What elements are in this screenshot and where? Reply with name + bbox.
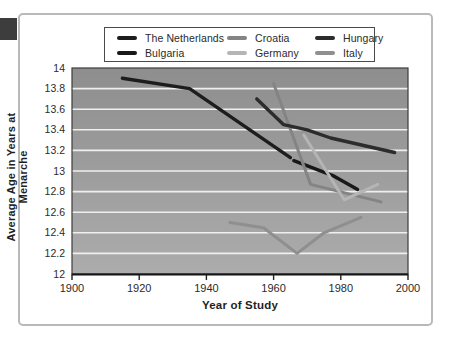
legend-label: The Netherlands [145,32,224,44]
legend-item-hungary: Hungary [315,32,375,44]
y-tick-label-12: 12 [53,268,65,280]
x-tick-label-2000: 2000 [396,282,420,294]
legend-swatch-icon [227,51,247,55]
y-axis-title: Average Age in Years at Menarche [5,89,29,265]
x-tick-label-1940: 1940 [194,282,218,294]
legend-item-the-netherlands: The Netherlands [117,32,227,44]
legend-item-germany: Germany [227,47,315,59]
legend-label: Bulgaria [145,47,184,59]
legend-item-bulgaria: Bulgaria [117,47,227,59]
legend-item-italy: Italy [315,47,375,59]
x-tick-label-1920: 1920 [127,282,151,294]
x-axis-title: Year of Study [170,299,310,311]
legend-swatch-icon [315,36,335,40]
y-tick-label-12.8: 12.8 [45,185,66,197]
legend-label: Germany [255,47,299,59]
y-tick-label-12.4: 12.4 [45,226,66,238]
legend-swatch-icon [315,51,335,55]
y-tick-label-12.6: 12.6 [45,206,66,218]
legend-item-croatia: Croatia [227,32,315,44]
legend-swatch-icon [117,51,137,55]
x-tick-label-1960: 1960 [261,282,285,294]
legend-label: Croatia [255,32,290,44]
y-tick-label-13.4: 13.4 [45,123,66,135]
legend-swatch-icon [117,36,137,40]
y-tick-label-13.2: 13.2 [45,144,66,156]
x-tick-label-1900: 1900 [60,282,84,294]
chart-legend: The NetherlandsCroatiaHungaryBulgariaGer… [104,27,375,62]
y-tick-label-13.6: 13.6 [45,103,66,115]
legend-label: Hungary [343,32,383,44]
y-tick-label-12.2: 12.2 [45,247,66,259]
y-tick-label-13.8: 13.8 [45,82,66,94]
y-tick-label-14: 14 [53,62,65,74]
y-tick-label-13: 13 [53,165,65,177]
x-tick-label-1980: 1980 [329,282,353,294]
legend-label: Italy [343,47,363,59]
legend-swatch-icon [227,36,247,40]
